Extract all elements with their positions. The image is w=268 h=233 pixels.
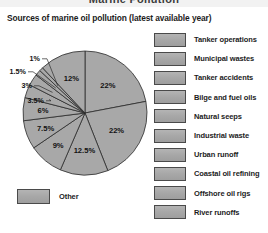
legend-item-other[interactable]: Other <box>17 189 79 204</box>
pie-chart-svg: 22%22%12.5%9%7.5%6%3.5%3%1.5%1%12% <box>0 28 150 193</box>
legend-label: River runoffs <box>194 208 239 217</box>
pie-slice-label: 3% <box>22 81 33 90</box>
legend-swatch <box>154 33 186 47</box>
legend-item[interactable]: Tanker accidents <box>154 68 266 87</box>
pie-slice-label: 1% <box>30 54 41 63</box>
pie-slice-label: 7.5% <box>37 124 55 133</box>
chart-page: Marine Pollution Sources of marine oil p… <box>0 0 268 233</box>
legend-item[interactable]: Bilge and fuel oils <box>154 88 266 107</box>
legend-swatch <box>154 129 186 143</box>
legend-item[interactable]: River runoffs <box>154 203 266 222</box>
legend-item[interactable]: Tanker operations <box>154 30 266 49</box>
legend-swatch <box>154 148 186 162</box>
legend-label: Tanker operations <box>194 35 257 44</box>
legend-swatch <box>154 167 186 181</box>
legend-label: Industrial waste <box>194 131 249 140</box>
pie-slice-label: 1.5% <box>10 67 27 76</box>
legend-swatch-other <box>17 189 50 204</box>
legend-item[interactable]: Industrial waste <box>154 126 266 145</box>
legend-item[interactable]: Offshore oil rigs <box>154 184 266 203</box>
legend-swatch <box>154 52 186 66</box>
legend-item[interactable]: Coastal oil refining <box>154 164 266 183</box>
pie-slice-label: 6% <box>37 106 48 115</box>
pie-slice-label: 12% <box>64 74 79 83</box>
pie-slice-label: 9% <box>53 141 64 150</box>
legend-label: Offshore oil rigs <box>194 189 250 198</box>
legend-swatch <box>154 205 186 219</box>
legend-label: Natural seeps <box>194 112 242 121</box>
chart-subtitle: Sources of marine oil pollution (latest … <box>7 13 211 23</box>
legend-label: Coastal oil refining <box>194 169 260 178</box>
legend-label: Urban runoff <box>194 150 238 159</box>
legend-item[interactable]: Urban runoff <box>154 145 266 164</box>
legend-swatch <box>154 109 186 123</box>
legend-label: Tanker accidents <box>194 73 253 82</box>
legend-item[interactable]: Municipal wastes <box>154 49 266 68</box>
page-banner: Marine Pollution <box>0 0 268 7</box>
legend-swatch <box>154 71 186 85</box>
legend-label: Bilge and fuel oils <box>194 93 256 102</box>
pie-slice-label: 22% <box>100 81 115 90</box>
legend-label: Municipal wastes <box>194 54 254 63</box>
pie-slice-label: 3.5% <box>28 96 45 105</box>
legend-item[interactable]: Natural seeps <box>154 107 266 126</box>
pie-slice-label: 12.5% <box>74 146 96 155</box>
legend-swatch <box>154 186 186 200</box>
pie-chart: 22%22%12.5%9%7.5%6%3.5%3%1.5%1%12% <box>0 28 150 193</box>
legend-label-other: Other <box>59 192 79 201</box>
legend-swatch <box>154 90 186 104</box>
pie-slice-label: 22% <box>109 126 124 135</box>
banner-title: Marine Pollution <box>0 0 268 5</box>
chart-legend: Tanker operationsMunicipal wastesTanker … <box>154 30 266 222</box>
